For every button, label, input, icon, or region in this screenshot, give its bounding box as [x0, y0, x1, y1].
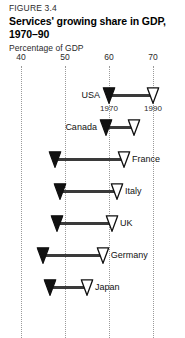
chart-row: Canada — [0, 116, 185, 142]
range-connector — [55, 158, 124, 161]
range-connector — [57, 222, 112, 225]
figure-number: FIGURE 3.4 — [9, 3, 181, 14]
row-label: Italy — [125, 186, 142, 197]
x-axis-tick-label: 60 — [104, 52, 113, 63]
range-connector — [43, 254, 103, 257]
row-label: UK — [120, 218, 133, 229]
marker-start-triangle-icon — [99, 119, 112, 136]
x-axis-tick-label: 40 — [16, 52, 25, 63]
row-label: Germany — [111, 250, 148, 261]
marker-start-triangle-icon — [51, 215, 64, 232]
x-axis-tick-label: 70 — [148, 52, 157, 63]
chart-row: Germany — [0, 244, 185, 270]
marker-end-triangle-icon — [81, 279, 94, 296]
marker-end-triangle-icon — [106, 215, 119, 232]
marker-start-triangle-icon — [44, 279, 57, 296]
chart-plot-area: 40506070 USA19701990CanadaFranceItalyUKG… — [0, 52, 185, 338]
year-annotations: 19701990 — [0, 104, 185, 116]
marker-end-triangle-icon — [110, 183, 123, 200]
figure-title: Services' growing share in GDP, 1970–90 — [9, 15, 181, 40]
figure-container: FIGURE 3.4 Services' growing share in GD… — [0, 0, 185, 338]
row-label: Japan — [95, 282, 120, 293]
marker-start-triangle-icon — [54, 183, 67, 200]
chart-row: Italy — [0, 180, 185, 206]
range-connector — [60, 190, 117, 193]
chart-row: UK — [0, 212, 185, 238]
x-axis-tick-labels: 40506070 — [0, 52, 185, 66]
marker-end-triangle-icon — [147, 87, 160, 104]
x-axis-tick-label: 50 — [60, 52, 69, 63]
start-year-annotation: 1970 — [100, 104, 118, 114]
marker-start-triangle-icon — [48, 151, 61, 168]
end-year-annotation: 1990 — [144, 104, 162, 114]
marker-start-triangle-icon — [103, 87, 116, 104]
chart-rows: USA19701990CanadaFranceItalyUKGermanyJap… — [0, 66, 185, 338]
chart-row: Japan — [0, 276, 185, 302]
figure-header: FIGURE 3.4 Services' growing share in GD… — [9, 3, 181, 54]
marker-end-triangle-icon — [117, 151, 130, 168]
marker-end-triangle-icon — [127, 119, 140, 136]
row-label: Canada — [65, 122, 97, 133]
marker-start-triangle-icon — [37, 247, 50, 264]
chart-row: France — [0, 148, 185, 174]
marker-end-triangle-icon — [96, 247, 109, 264]
row-label: France — [132, 154, 160, 165]
row-label: USA — [81, 90, 100, 101]
